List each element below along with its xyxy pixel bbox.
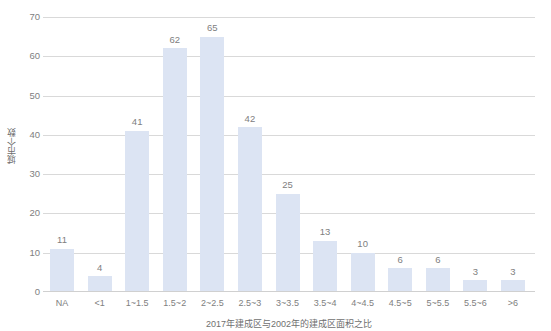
- y-axis-tick-label: 50: [29, 91, 40, 101]
- x-axis-tick-label: 4~4.5: [351, 298, 374, 309]
- x-axis-title: 2017年建成区与2002年的建成区面积之比: [43, 317, 535, 330]
- bar-rect: [313, 241, 337, 292]
- bar-value-label: 3: [510, 267, 515, 277]
- x-axis-tick-label: 5.5~6: [464, 298, 487, 309]
- bar-value-label: 65: [207, 23, 218, 33]
- bar-value-label: 3: [473, 267, 478, 277]
- bar-value-label: 11: [57, 235, 67, 245]
- x-axis-tick-label: 3~3.5: [276, 298, 299, 309]
- y-axis-title-text: 城市个数: [4, 128, 17, 164]
- y-axis-tick-label: 70: [29, 12, 40, 22]
- bar-chart: 城市个数 010203040506070 1144162654225131066…: [0, 0, 551, 331]
- bar[interactable]: 25: [276, 17, 300, 292]
- y-axis-tick-label: 0: [35, 287, 40, 297]
- x-axis-tick-labels: NA<11~1.51.5~22~2.52.5~33~3.53.5~44~4.54…: [43, 298, 535, 312]
- bar-value-label: 62: [169, 35, 180, 45]
- bar[interactable]: 62: [163, 17, 187, 292]
- x-axis-tick-label: >6: [508, 298, 518, 309]
- bar-rect: [200, 37, 224, 292]
- y-axis-tick-label: 60: [29, 52, 40, 62]
- bar-rect: [426, 268, 450, 292]
- bar-value-label: 41: [132, 117, 143, 127]
- bar-rect: [125, 131, 149, 292]
- bar[interactable]: 65: [200, 17, 224, 292]
- y-axis-tick-label: 40: [29, 130, 40, 140]
- x-axis-tick-label: 2~2.5: [201, 298, 224, 309]
- y-axis-tick-labels: 010203040506070: [18, 0, 40, 331]
- bars-layer: 114416265422513106633: [43, 17, 535, 292]
- x-axis-tick-label: NA: [56, 298, 69, 309]
- bar[interactable]: 11: [50, 17, 74, 292]
- x-axis-tick-label: 4.5~5: [389, 298, 412, 309]
- bar-rect: [388, 268, 412, 292]
- y-axis-tick-label: 30: [29, 169, 40, 179]
- bar[interactable]: 4: [88, 17, 112, 292]
- bar-value-label: 4: [97, 263, 102, 273]
- bar[interactable]: 6: [388, 17, 412, 292]
- plot-area: 114416265422513106633: [43, 17, 535, 292]
- x-axis-tick-label: <1: [94, 298, 104, 309]
- bar-rect: [351, 253, 375, 292]
- bar[interactable]: 42: [238, 17, 262, 292]
- bar-value-label: 10: [357, 239, 368, 249]
- bar-value-label: 6: [435, 255, 440, 265]
- bar[interactable]: 3: [463, 17, 487, 292]
- bar-value-label: 25: [282, 180, 293, 190]
- bar-rect: [276, 194, 300, 292]
- axis-baseline: [43, 291, 535, 292]
- x-axis-tick-label: 1~1.5: [126, 298, 149, 309]
- bar[interactable]: 13: [313, 17, 337, 292]
- y-axis-tick-label: 10: [29, 248, 40, 258]
- bar-value-label: 6: [398, 255, 403, 265]
- bar[interactable]: 3: [501, 17, 525, 292]
- bar-rect: [50, 249, 74, 292]
- x-axis-tick-label: 5~5.5: [426, 298, 449, 309]
- y-axis-tick-label: 20: [29, 209, 40, 219]
- bar-rect: [163, 48, 187, 292]
- bar[interactable]: 10: [351, 17, 375, 292]
- bar-value-label: 13: [320, 227, 331, 237]
- x-axis-tick-label: 1.5~2: [163, 298, 186, 309]
- bar[interactable]: 41: [125, 17, 149, 292]
- bar-rect: [88, 276, 112, 292]
- x-axis-tick-label: 2.5~3: [239, 298, 262, 309]
- y-axis-title: 城市个数: [2, 0, 18, 292]
- x-axis-tick-label: 3.5~4: [314, 298, 337, 309]
- bar-rect: [238, 127, 262, 292]
- bar[interactable]: 6: [426, 17, 450, 292]
- bar-value-label: 42: [245, 114, 256, 124]
